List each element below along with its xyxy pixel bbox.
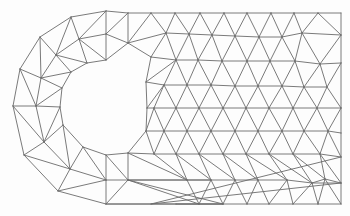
- mesh-edge: [199, 85, 211, 108]
- mesh-edge: [259, 37, 270, 61]
- mesh-edge: [36, 106, 44, 142]
- mesh-edge: [328, 131, 341, 157]
- mesh-edge: [212, 35, 235, 36]
- mesh-edge: [235, 86, 246, 108]
- mesh-edge: [235, 13, 247, 36]
- mesh-edge: [36, 88, 62, 106]
- mesh-edge: [258, 131, 269, 154]
- mesh-edge: [282, 37, 295, 61]
- mesh-edge: [304, 108, 317, 131]
- mesh-edge: [106, 11, 128, 13]
- mesh-edge: [198, 35, 212, 60]
- mesh-edge: [187, 131, 199, 154]
- mesh-edge: [304, 87, 317, 108]
- mesh-edge: [294, 13, 302, 33]
- mesh-edge: [246, 131, 258, 154]
- mesh-edge: [211, 85, 235, 86]
- mesh-edge: [44, 107, 60, 142]
- mesh-edge: [293, 154, 325, 179]
- mesh-edge: [60, 107, 63, 125]
- mesh-edge: [247, 61, 258, 86]
- mesh-edge: [222, 61, 235, 86]
- mesh-edge: [287, 180, 293, 204]
- mesh-edge: [199, 131, 211, 154]
- mesh-edge: [269, 86, 282, 108]
- mesh-edge: [200, 13, 212, 35]
- mesh-edge: [176, 85, 187, 108]
- mesh-edge: [40, 37, 41, 78]
- mesh-edge: [166, 13, 175, 33]
- mesh-edge: [211, 108, 223, 131]
- mesh-edge: [271, 13, 282, 37]
- mesh-edge: [70, 169, 106, 180]
- mesh-diagram: [0, 0, 350, 216]
- mesh-edge: [164, 60, 176, 85]
- mesh-edge: [106, 153, 128, 155]
- mesh-edge: [41, 78, 62, 88]
- mesh-edge: [58, 180, 106, 191]
- mesh-edge: [146, 60, 176, 82]
- mesh-edge: [270, 61, 282, 86]
- mesh-edge: [189, 34, 198, 60]
- mesh-edge: [128, 153, 154, 154]
- mesh-edge: [56, 55, 87, 63]
- mesh-figure: [0, 0, 350, 216]
- mesh-edge: [83, 147, 106, 180]
- mesh-edge: [246, 86, 258, 108]
- mesh-edge: [41, 72, 71, 78]
- mesh-edge: [235, 36, 247, 61]
- mesh-edge: [328, 108, 341, 131]
- mesh-edge: [187, 108, 199, 131]
- mesh-edge: [304, 64, 320, 87]
- mesh-edge: [40, 37, 56, 55]
- mesh-edge: [247, 37, 259, 61]
- mesh-edge: [70, 147, 83, 169]
- mesh-edge: [40, 17, 71, 37]
- mesh-edge: [71, 63, 87, 72]
- mesh-edge: [317, 87, 327, 108]
- mesh-edge: [176, 60, 187, 85]
- mesh-edge: [106, 155, 128, 180]
- mesh-edge: [187, 85, 199, 108]
- mesh-edge: [259, 13, 271, 37]
- mesh-edge: [154, 131, 164, 154]
- mesh-edge: [176, 131, 187, 154]
- mesh-edge: [36, 78, 41, 106]
- mesh-edge: [302, 33, 320, 64]
- mesh-edge: [199, 154, 235, 180]
- mesh-edge: [327, 87, 341, 108]
- mesh-edge: [56, 55, 71, 72]
- mesh-edge: [282, 61, 295, 86]
- mesh-edge: [223, 108, 235, 131]
- mesh-edge: [235, 131, 246, 154]
- mesh-edge: [282, 108, 293, 131]
- mesh-edge: [320, 35, 341, 64]
- mesh-edge: [164, 85, 176, 108]
- mesh-edge: [211, 61, 222, 85]
- mesh-edge: [235, 36, 259, 37]
- mesh-edge: [128, 131, 146, 153]
- mesh-edge: [302, 33, 341, 35]
- mesh-edge: [211, 85, 223, 108]
- mesh-edge: [106, 43, 128, 60]
- mesh-edge: [293, 108, 304, 131]
- mesh-edge: [224, 13, 235, 36]
- mesh-edge: [269, 131, 282, 154]
- mesh-edge: [318, 13, 341, 35]
- mesh-edge: [269, 154, 312, 183]
- mesh-edge: [176, 108, 187, 131]
- mesh-edge: [295, 61, 320, 64]
- mesh-edge: [235, 108, 246, 131]
- mesh-edge: [198, 60, 222, 61]
- mesh-edge: [36, 106, 60, 107]
- mesh-edge: [198, 60, 211, 85]
- mesh-edge: [151, 13, 166, 33]
- mesh-edge: [71, 17, 79, 39]
- mesh-edge: [175, 13, 189, 34]
- mesh-edge: [223, 86, 235, 108]
- mesh-edge: [189, 13, 200, 34]
- mesh-edge: [62, 72, 71, 88]
- mesh-edge: [87, 60, 106, 63]
- mesh-edge: [223, 131, 235, 154]
- mesh-edge: [146, 82, 147, 108]
